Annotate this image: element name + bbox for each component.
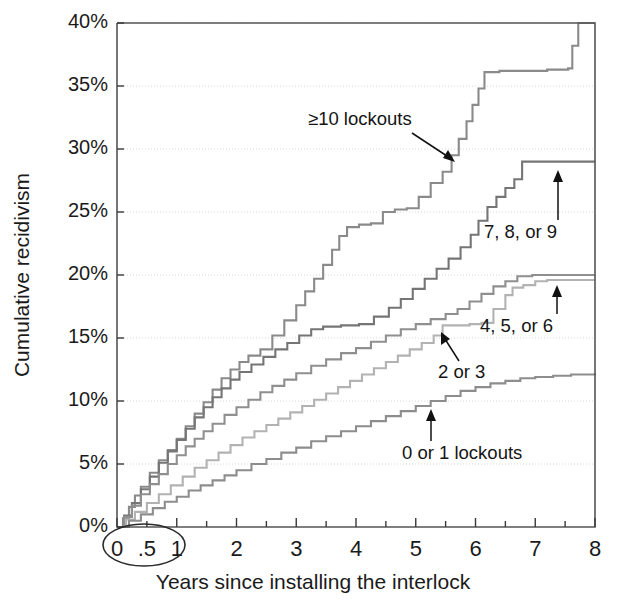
y-tick-label-20: 20% [68, 262, 108, 284]
x-tick-label-4: 4 [350, 536, 362, 561]
x-tick-label-6: 6 [469, 536, 481, 561]
series-label-s23: 2 or 3 [438, 361, 485, 382]
series-label-ge10: ≥10 lockouts [308, 108, 412, 129]
chart-canvas: 0%5%10%15%20%25%30%35%40% 0.512345678 Ye… [0, 0, 626, 614]
x-tick-label-8: 8 [589, 536, 601, 561]
x-tick-label-7: 7 [529, 536, 541, 561]
y-tick-label-15: 15% [68, 325, 108, 347]
y-axis-title: Cumulative recidivism [10, 173, 33, 377]
y-tick-label-10: 10% [68, 388, 108, 410]
x-tick-label-5: 5 [410, 536, 422, 561]
x-tick-label-p5: .5 [138, 536, 156, 561]
y-tick-label-0: 0% [79, 514, 108, 536]
series-label-s01: 0 or 1 lockouts [402, 442, 522, 463]
y-tick-label-5: 5% [79, 451, 108, 473]
y-tick-labels: 0%5%10%15%20%25%30%35%40% [68, 10, 108, 536]
y-tick-label-35: 35% [68, 73, 108, 95]
recidivism-survival-chart: 0%5%10%15%20%25%30%35%40% 0.512345678 Ye… [0, 0, 626, 614]
y-tick-label-25: 25% [68, 199, 108, 221]
series-label-s789: 7, 8, or 9 [484, 221, 557, 242]
series-label-s456: 4, 5, or 6 [480, 315, 553, 336]
x-tick-label-2: 2 [230, 536, 242, 561]
x-tick-label-0: 0 [111, 536, 123, 561]
y-tick-label-30: 30% [68, 136, 108, 158]
x-axis-title: Years since installing the interlock [156, 570, 471, 593]
x-tick-label-3: 3 [290, 536, 302, 561]
y-tick-label-40: 40% [68, 10, 108, 32]
